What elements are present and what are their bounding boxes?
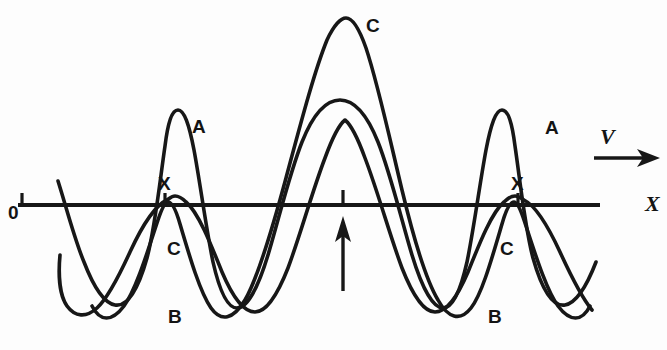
wave-diagram-svg — [0, 0, 667, 350]
curve-label-a-right: A — [545, 118, 559, 137]
curve-label-c-top: C — [366, 16, 380, 35]
node-label-x-right: X — [511, 174, 524, 193]
velocity-label: V — [600, 126, 615, 148]
node-label-x-left: X — [158, 174, 171, 193]
curve-label-c-left: C — [167, 239, 181, 258]
curve-label-b-left: B — [168, 307, 182, 326]
up-arrow-icon — [335, 216, 351, 291]
curve-group-c — [92, 18, 590, 318]
wave-interference-figure: C A A X X C C B B 0 V X — [0, 0, 667, 350]
curve-group-b — [59, 120, 592, 315]
curve-label-b-right: B — [488, 307, 502, 326]
curve-c-path — [92, 18, 590, 318]
x-axis-label: X — [645, 193, 660, 215]
origin-label: 0 — [8, 203, 19, 222]
curve-label-c-right: C — [500, 239, 514, 258]
curve-label-a-left: A — [192, 117, 206, 136]
curve-b-path — [59, 120, 592, 315]
right-arrow-icon — [594, 149, 660, 167]
